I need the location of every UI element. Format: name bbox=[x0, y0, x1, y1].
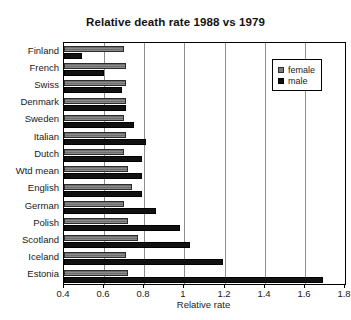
y-axis-label: French bbox=[0, 62, 59, 73]
bar-row bbox=[64, 112, 345, 129]
bar-row bbox=[64, 250, 345, 267]
bar-row bbox=[64, 232, 345, 249]
bar-female bbox=[64, 270, 128, 276]
x-tick-label: 1.8 bbox=[327, 288, 351, 299]
x-axis-ticks: 0.40.60.811.21.41.61.8 bbox=[0, 284, 351, 298]
y-axis-label: Dutch bbox=[0, 148, 59, 159]
x-tick-label: 1 bbox=[166, 288, 200, 299]
bar-female bbox=[64, 218, 128, 224]
y-axis-label: English bbox=[0, 182, 59, 193]
bar-female bbox=[64, 252, 126, 258]
bar-female bbox=[64, 80, 126, 86]
bar-row bbox=[64, 181, 345, 198]
bar-male bbox=[64, 173, 142, 179]
bar-male bbox=[64, 87, 122, 93]
y-axis-labels: FinlandFrenchSwissDenmarkSwedenItalianDu… bbox=[0, 42, 59, 283]
y-axis-label: Iceland bbox=[0, 251, 59, 262]
x-axis-title: Relative rate bbox=[63, 299, 344, 310]
bar-male bbox=[64, 208, 156, 214]
y-axis-label: Sweden bbox=[0, 113, 59, 124]
y-axis-label: Italian bbox=[0, 131, 59, 142]
bar-female bbox=[64, 166, 128, 172]
bar-female bbox=[64, 115, 124, 121]
bar-female bbox=[64, 149, 124, 155]
bar-row bbox=[64, 164, 345, 181]
legend-swatch-female bbox=[278, 67, 284, 73]
bar-row bbox=[64, 267, 345, 284]
bar-male bbox=[64, 191, 142, 197]
bar-female bbox=[64, 201, 124, 207]
y-axis-label: Denmark bbox=[0, 96, 59, 107]
bar-row bbox=[64, 198, 345, 215]
bar-female bbox=[64, 132, 126, 138]
x-tick-label: 0.8 bbox=[126, 288, 160, 299]
x-tick-label: 1.6 bbox=[287, 288, 321, 299]
y-axis-label: Finland bbox=[0, 45, 59, 56]
x-tick-label: 1.4 bbox=[247, 288, 281, 299]
bar-male bbox=[64, 156, 142, 162]
legend-item-female: female bbox=[278, 64, 317, 75]
bar-male bbox=[64, 53, 82, 59]
y-axis-label: Estonia bbox=[0, 268, 59, 279]
bar-male bbox=[64, 70, 104, 76]
relative-death-rate-chart: Relative death rate 1988 vs 1979 Finland… bbox=[0, 0, 351, 320]
bar-male bbox=[64, 139, 146, 145]
bar-female bbox=[64, 63, 126, 69]
bar-row bbox=[64, 43, 345, 60]
bar-female bbox=[64, 235, 138, 241]
x-tick-label: 0.6 bbox=[86, 288, 120, 299]
chart-title: Relative death rate 1988 vs 1979 bbox=[0, 16, 351, 28]
x-tick-label: 1.2 bbox=[207, 288, 241, 299]
y-axis-label: German bbox=[0, 200, 59, 211]
bar-male bbox=[64, 259, 223, 265]
bar-row bbox=[64, 146, 345, 163]
bar-female bbox=[64, 46, 124, 52]
bar-female bbox=[64, 184, 132, 190]
legend-label: male bbox=[288, 76, 308, 86]
bar-row bbox=[64, 215, 345, 232]
y-axis-label: Scotland bbox=[0, 234, 59, 245]
y-axis-label: Swiss bbox=[0, 79, 59, 90]
legend-item-male: male bbox=[278, 75, 317, 86]
legend-label: female bbox=[288, 65, 315, 75]
bar-female bbox=[64, 98, 126, 104]
y-axis-label: Wtd mean bbox=[0, 165, 59, 176]
bar-male bbox=[64, 105, 126, 111]
y-axis-label: Polish bbox=[0, 217, 59, 228]
legend-swatch-male bbox=[278, 78, 284, 84]
bar-row bbox=[64, 95, 345, 112]
chart-legend: femalemale bbox=[272, 59, 322, 91]
bar-male bbox=[64, 225, 180, 231]
bar-male bbox=[64, 277, 323, 283]
bar-male bbox=[64, 122, 134, 128]
bar-male bbox=[64, 242, 190, 248]
x-tick-label: 0.4 bbox=[46, 288, 80, 299]
bar-row bbox=[64, 129, 345, 146]
